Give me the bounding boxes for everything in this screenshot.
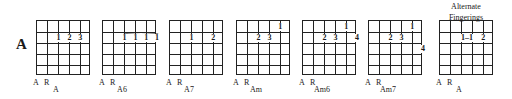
fret-line xyxy=(237,65,289,66)
finger-number: 1 xyxy=(122,34,128,42)
finger-number: 1–1 xyxy=(460,34,474,42)
fret-line xyxy=(369,54,421,55)
string-line xyxy=(213,21,214,74)
string-line xyxy=(47,21,48,74)
string-line xyxy=(69,21,70,74)
fret-line xyxy=(303,43,355,44)
string-line xyxy=(472,21,473,74)
string-line xyxy=(461,21,462,74)
fret-line xyxy=(440,54,492,55)
finger-number: 1 xyxy=(56,34,62,42)
finger-number: 2 xyxy=(66,34,72,42)
fretboard-grid: 12 xyxy=(169,20,223,75)
fret-line xyxy=(237,43,289,44)
string-line xyxy=(483,21,484,74)
fret-line xyxy=(369,43,421,44)
fret-line xyxy=(37,65,89,66)
finger-number: 1 xyxy=(189,34,195,42)
alt-title-line1: Alternate xyxy=(436,1,496,12)
finger-number: 1 xyxy=(409,23,415,31)
fretboard-grid: 1234 xyxy=(302,20,356,75)
string-line xyxy=(202,21,203,74)
string-line xyxy=(113,21,114,74)
string-line xyxy=(80,21,81,74)
finger-number: 3 xyxy=(77,34,83,42)
chord-name: A7 xyxy=(169,85,209,94)
chord-diagram: 12ARA7 xyxy=(169,20,224,96)
finger-number: 3 xyxy=(398,34,404,42)
finger-number: 1 xyxy=(143,34,149,42)
fretboard-grid: 1111 xyxy=(102,20,156,75)
string-line xyxy=(124,21,125,74)
fret-line xyxy=(103,65,155,66)
finger-number: 2 xyxy=(256,34,262,42)
string-line xyxy=(247,21,248,74)
fret-line xyxy=(237,54,289,55)
string-line xyxy=(258,21,259,74)
fretboard-grid: 123 xyxy=(36,20,90,75)
fret-line xyxy=(440,43,492,44)
string-line xyxy=(379,21,380,74)
fret-line xyxy=(237,32,289,33)
string-line xyxy=(135,21,136,74)
string-line xyxy=(191,21,192,74)
finger-number: 3 xyxy=(332,34,338,42)
finger-number: 2 xyxy=(480,34,486,42)
key-label: A xyxy=(16,36,27,53)
finger-number: 4 xyxy=(354,34,360,42)
fret-line xyxy=(369,32,421,33)
fret-line xyxy=(303,65,355,66)
finger-number: 1 xyxy=(277,23,283,31)
chord-name: A6 xyxy=(102,85,142,94)
chord-diagram: 1234ARAm7 xyxy=(368,20,423,96)
fret-line xyxy=(170,43,222,44)
string-line xyxy=(269,21,270,74)
string-line xyxy=(324,21,325,74)
fret-line xyxy=(303,32,355,33)
chord-diagram: 123ARAm xyxy=(236,20,291,96)
string-line xyxy=(335,21,336,74)
fret-line xyxy=(37,54,89,55)
fret-line xyxy=(440,65,492,66)
finger-number: 2 xyxy=(322,34,328,42)
fret-line xyxy=(369,65,421,66)
fretboard-grid: 123 xyxy=(236,20,290,75)
fret-line xyxy=(170,65,222,66)
finger-number: 1 xyxy=(132,34,138,42)
fret-line xyxy=(103,54,155,55)
fretboard-grid: 1234 xyxy=(368,20,422,75)
chord-diagram: 1111ARA6 xyxy=(102,20,157,96)
finger-number: 2 xyxy=(210,34,216,42)
finger-number: 2 xyxy=(388,34,394,42)
chord-name: A xyxy=(439,85,479,94)
string-line xyxy=(180,21,181,74)
string-line xyxy=(401,21,402,74)
chord-diagram: 123ARA xyxy=(36,20,91,96)
fret-line xyxy=(103,43,155,44)
fret-line xyxy=(303,54,355,55)
chord-name: Am xyxy=(236,85,276,94)
finger-number: 1 xyxy=(154,34,160,42)
finger-number: 1 xyxy=(343,23,349,31)
chord-diagram: 1234ARAm6 xyxy=(302,20,357,96)
string-line xyxy=(450,21,451,74)
string-line xyxy=(58,21,59,74)
fretboard-grid: 1–12 xyxy=(439,20,493,75)
string-line xyxy=(146,21,147,74)
chord-name: A xyxy=(36,85,76,94)
finger-number: 4 xyxy=(420,45,426,53)
string-line xyxy=(390,21,391,74)
string-line xyxy=(313,21,314,74)
chord-name: Am7 xyxy=(368,85,408,94)
fret-line xyxy=(37,43,89,44)
chord-diagram: 1–12ARA xyxy=(439,20,494,96)
fret-line xyxy=(170,54,222,55)
finger-number: 3 xyxy=(266,34,272,42)
chord-name: Am6 xyxy=(302,85,342,94)
